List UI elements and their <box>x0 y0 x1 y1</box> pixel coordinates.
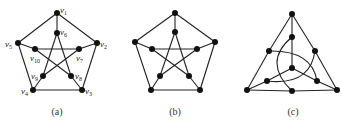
vertex-v4 <box>30 87 36 93</box>
edge-bl-bm <box>247 90 292 91</box>
vertex-it <box>289 34 295 40</box>
edge-i4-i1 <box>160 32 175 76</box>
edge-v2-v3 <box>82 43 97 90</box>
vertex-o3 <box>197 87 203 93</box>
vertex-v7 <box>76 46 82 52</box>
vertex-il <box>264 78 270 84</box>
vertex-o1 <box>172 10 178 16</box>
vertex-t <box>289 11 295 17</box>
panel-c-triangular-petersen-graph: (c) <box>244 11 340 118</box>
vertex-i3 <box>186 73 192 79</box>
edge-o5-o1 <box>135 13 175 42</box>
panel-b-edges <box>135 13 215 90</box>
edge-t-lm <box>269 14 292 51</box>
edge-o2-o3 <box>200 42 215 90</box>
vertex-label-v7: v7 <box>76 53 83 64</box>
edge-o4-o5 <box>135 42 151 90</box>
vertex-bm <box>289 88 295 94</box>
edge-i2-i4 <box>160 49 197 76</box>
edge-v6-v8 <box>57 33 71 76</box>
edge-v9-v6 <box>43 33 57 76</box>
vertex-v10 <box>32 46 38 52</box>
vertex-o5 <box>132 39 138 45</box>
panel-b-caption: (b) <box>169 106 181 118</box>
vertex-label-v1: v1 <box>60 5 67 16</box>
edge-v4-v5 <box>18 43 33 90</box>
vertex-label-v3: v3 <box>85 86 92 97</box>
edge-v5-v1 <box>18 13 57 43</box>
arc-edge-it-bm <box>277 37 292 91</box>
edge-i3-i5 <box>152 49 189 76</box>
edge-rm-t <box>292 14 315 51</box>
vertex-label-v9: v9 <box>31 71 38 82</box>
panel-c-edges <box>247 14 337 91</box>
edge-o1-o2 <box>175 13 215 42</box>
vertex-label-v5: v5 <box>5 39 12 50</box>
vertex-i2 <box>194 46 200 52</box>
vertex-v8 <box>68 73 74 79</box>
vertex-lm <box>266 48 272 54</box>
panel-b-unlabeled-petersen-graph: (b) <box>132 10 218 118</box>
panel-a-caption: (a) <box>51 106 62 118</box>
edge-v7-v9 <box>43 49 79 76</box>
panel-c-caption: (c) <box>287 106 298 118</box>
vertex-br <box>334 87 340 93</box>
vertex-i5 <box>149 46 155 52</box>
vertex-ir <box>314 78 320 84</box>
edge-i1-i3 <box>175 32 189 76</box>
edge-v8-v10 <box>35 49 71 76</box>
vertex-v5 <box>15 40 21 46</box>
petersen-graph-figure: v1v2v3v4v5v6v7v8v9v10 (a) (b) (c) <box>0 0 342 124</box>
vertex-label-v8: v8 <box>75 71 82 82</box>
edge-br-rm <box>315 51 337 90</box>
vertex-o2 <box>212 39 218 45</box>
edge-lm-bl <box>247 51 269 90</box>
panel-a-labeled-petersen-graph: v1v2v3v4v5v6v7v8v9v10 (a) <box>5 5 107 118</box>
vertex-label-v4: v4 <box>21 86 28 97</box>
vertex-label-v10: v10 <box>30 53 40 64</box>
vertex-label-v6: v6 <box>60 27 67 38</box>
vertex-i4 <box>157 73 163 79</box>
panel-a-edges <box>18 13 97 90</box>
vertex-label-v2: v2 <box>100 39 107 50</box>
edge-bm-br <box>292 90 337 91</box>
vertex-i1 <box>172 29 178 35</box>
vertex-rm <box>312 48 318 54</box>
vertex-bl <box>244 87 250 93</box>
vertex-o4 <box>148 87 154 93</box>
vertex-v9 <box>40 73 46 79</box>
vertex-c <box>289 65 295 71</box>
